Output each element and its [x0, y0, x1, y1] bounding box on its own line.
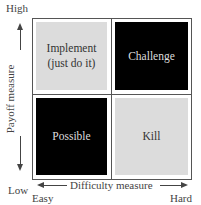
- y-axis-low-label: Low: [8, 184, 28, 196]
- quadrant-kill: Kill: [115, 98, 188, 175]
- x-axis-easy-label: Easy: [32, 192, 53, 204]
- quadrant-kill-label: Kill: [143, 129, 161, 144]
- x-axis-hard-label: Hard: [170, 192, 192, 204]
- quadrant-implement-label: Implement: [47, 41, 97, 56]
- quadrant-implement-sublabel: (just do it): [47, 56, 97, 71]
- quadrant-possible: Possible: [36, 98, 107, 175]
- y-axis-high-label: High: [6, 2, 28, 14]
- horizontal-divider: [32, 94, 192, 95]
- quadrant-implement: Implement (just do it): [36, 22, 107, 90]
- quadrant-challenge: Challenge: [115, 22, 188, 90]
- quadrant-challenge-label: Challenge: [128, 49, 175, 64]
- vertical-divider: [111, 18, 112, 180]
- quadrant-possible-label: Possible: [52, 129, 90, 144]
- x-axis-title: Difficulty measure: [70, 179, 153, 191]
- y-axis-title: Payoff measure: [4, 63, 16, 135]
